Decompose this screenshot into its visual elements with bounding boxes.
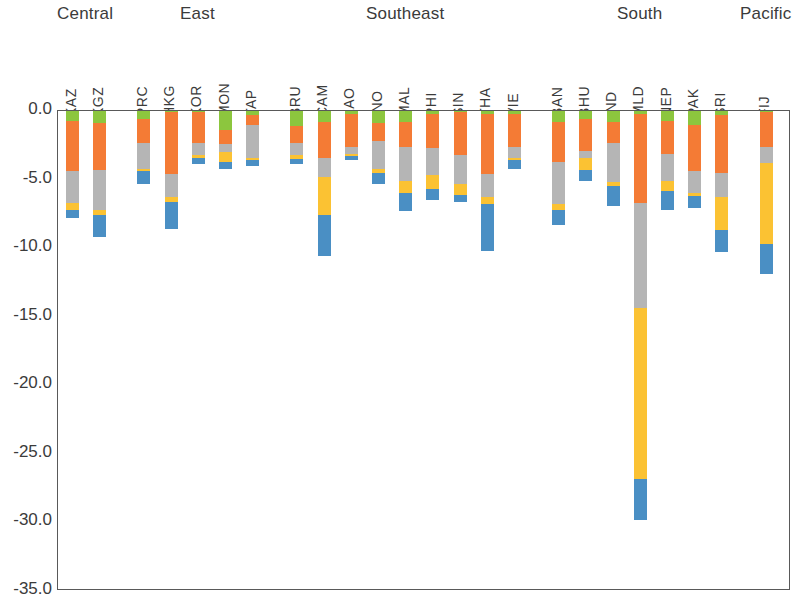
bar-segment-blue: [372, 173, 385, 184]
bar-segment-orange: [688, 125, 701, 172]
bar-phi: [426, 111, 439, 200]
bar-segment-green: [66, 111, 79, 121]
bar-segment-yellow: [634, 308, 647, 478]
bar-segment-blue: [399, 193, 412, 211]
bar-segment-orange: [66, 121, 79, 172]
bar-segment-yellow: [426, 175, 439, 189]
y-axis-tick-label: -20.0: [2, 373, 52, 393]
bar-segment-orange: [318, 122, 331, 158]
bar-segment-blue: [137, 171, 150, 183]
bar-segment-orange: [137, 119, 150, 142]
bar-segment-green: [290, 111, 303, 126]
bar-segment-orange: [579, 119, 592, 151]
bar-segment-yellow: [715, 197, 728, 230]
bar-segment-gray: [552, 162, 565, 205]
bar-ino: [372, 111, 385, 184]
bar-segment-green: [579, 111, 592, 119]
bar-segment-orange: [481, 114, 494, 174]
bar-segment-yellow: [760, 163, 773, 244]
bar-segment-orange: [192, 112, 205, 142]
bar-vie: [508, 111, 521, 169]
bar-segment-blue: [552, 210, 565, 225]
bar-segment-gray: [345, 147, 358, 154]
region-label-south: South: [617, 4, 662, 24]
bar-lao: [345, 111, 358, 160]
bar-segment-gray: [634, 203, 647, 309]
bar-segment-gray: [579, 151, 592, 158]
bar-segment-green: [399, 111, 412, 122]
y-axis-tick-label: -15.0: [2, 305, 52, 325]
bar-segment-gray: [219, 144, 232, 152]
bar-kaz: [66, 111, 79, 218]
bar-ind: [607, 111, 620, 206]
region-label-east: East: [180, 4, 215, 24]
region-label-southeast: Southeast: [366, 4, 444, 24]
bar-segment-blue: [579, 170, 592, 181]
bar-segment-green: [688, 111, 701, 125]
bar-segment-orange: [552, 122, 565, 162]
bar-ban: [552, 111, 565, 225]
bar-segment-green: [219, 111, 232, 130]
bar-segment-yellow: [318, 177, 331, 215]
y-axis: 0.0-5.0-10.0-15.0-20.0-25.0-30.0-35.0: [0, 0, 52, 606]
bar-segment-yellow: [454, 184, 467, 195]
bar-segment-blue: [345, 156, 358, 160]
bar-segment-gray: [481, 174, 494, 197]
bar-segment-orange: [508, 114, 521, 147]
bar-tha: [481, 111, 494, 251]
y-axis-tick-label: -5.0: [2, 168, 52, 188]
bar-segment-gray: [165, 174, 178, 197]
bar-segment-blue: [634, 479, 647, 520]
bar-mal: [399, 111, 412, 211]
y-axis-tick-label: -25.0: [2, 442, 52, 462]
bar-segment-blue: [165, 202, 178, 229]
bar-hkg: [165, 111, 178, 229]
bar-segment-yellow: [66, 203, 79, 210]
bar-segment-gray: [137, 143, 150, 169]
bar-segment-orange: [760, 112, 773, 146]
bar-segment-blue: [760, 244, 773, 274]
bar-segment-orange: [661, 121, 674, 154]
bar-segment-blue: [454, 195, 467, 202]
bar-segment-gray: [454, 155, 467, 184]
bar-segment-orange: [165, 112, 178, 174]
bar-segment-blue: [246, 160, 259, 165]
bar-segment-yellow: [661, 181, 674, 191]
bar-segment-blue: [426, 189, 439, 200]
bar-segment-gray: [66, 171, 79, 203]
bar-segment-gray: [426, 148, 439, 175]
bar-segment-gray: [760, 147, 773, 163]
bar-segment-blue: [219, 162, 232, 169]
y-axis-tick-label: 0.0: [2, 99, 52, 119]
y-axis-tick-label: -10.0: [2, 236, 52, 256]
bar-segment-orange: [93, 123, 106, 170]
bar-segment-gray: [661, 154, 674, 181]
bar-mld: [634, 111, 647, 520]
bar-nep: [661, 111, 674, 210]
bar-kgz: [93, 111, 106, 237]
bar-segment-yellow: [481, 197, 494, 204]
bar-segment-gray: [508, 147, 521, 158]
plot-area: [57, 110, 790, 590]
bar-segment-blue: [481, 204, 494, 251]
bar-segment-green: [552, 111, 565, 122]
bar-segment-blue: [318, 215, 331, 256]
bar-segment-yellow: [219, 152, 232, 162]
bar-bhu: [579, 111, 592, 181]
bar-segment-gray: [715, 173, 728, 198]
bar-segment-orange: [607, 122, 620, 143]
bar-bru: [290, 111, 303, 164]
bar-segment-orange: [345, 114, 358, 147]
bar-mon: [219, 111, 232, 169]
bar-kor: [192, 111, 205, 164]
bar-pak: [688, 111, 701, 208]
bar-segment-green: [372, 111, 385, 123]
bar-segment-green: [318, 111, 331, 122]
bar-segment-green: [137, 111, 150, 119]
y-axis-tick-label: -30.0: [2, 510, 52, 530]
bar-cam: [318, 111, 331, 256]
bar-segment-orange: [246, 115, 259, 125]
bar-segment-gray: [607, 143, 620, 183]
bar-segment-blue: [66, 210, 79, 218]
bar-segment-gray: [290, 143, 303, 155]
